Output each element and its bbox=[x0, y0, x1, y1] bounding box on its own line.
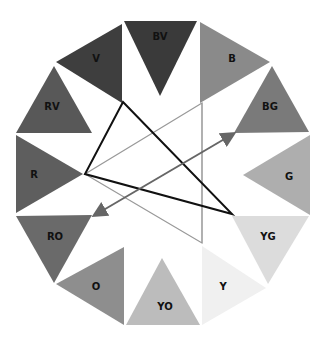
segment-label-rv: RV bbox=[44, 101, 60, 112]
segment-yo bbox=[126, 258, 200, 325]
segment-label-r: R bbox=[30, 169, 38, 180]
segment-label-yg: YG bbox=[259, 231, 275, 242]
complementary-arrow bbox=[95, 134, 233, 215]
segment-label-b: B bbox=[228, 53, 236, 64]
segment-r bbox=[16, 135, 83, 213]
segment-label-g: G bbox=[285, 171, 293, 182]
color-wheel-diagram: BVBBGGYGYYOORORRVV bbox=[0, 0, 326, 339]
color-segments bbox=[16, 21, 310, 325]
segment-label-y: Y bbox=[218, 281, 227, 292]
segment-label-bv: BV bbox=[153, 31, 168, 42]
segment-label-v: V bbox=[92, 53, 100, 64]
segment-label-o: O bbox=[92, 281, 101, 292]
segment-label-yo: YO bbox=[156, 301, 172, 312]
segment-label-bg: BG bbox=[262, 101, 278, 112]
segment-g bbox=[243, 135, 310, 215]
harmony-lines bbox=[85, 102, 233, 243]
dark-triangle bbox=[85, 102, 232, 214]
segment-label-ro: RO bbox=[47, 231, 63, 242]
